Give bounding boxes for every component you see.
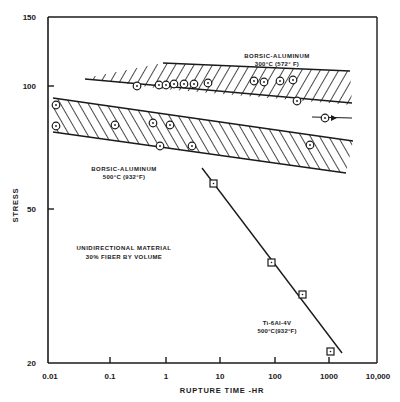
runout-arrow-icon	[331, 115, 337, 121]
annotation-borsic-500c: BORSIC-ALUMINUM 500°C (932°F)	[91, 166, 157, 180]
x-tick-10: 10	[216, 372, 225, 381]
svg-text:Ti-6Al-4V: Ti-6Al-4V	[263, 320, 292, 326]
svg-text:BORSIC-ALUMINUM: BORSIC-ALUMINUM	[244, 53, 310, 59]
svg-text:UNIDIRECTIONAL MATERIAL: UNIDIRECTIONAL MATERIAL	[77, 245, 172, 251]
x-tick-0.1: 0.1	[104, 372, 116, 381]
y-tick-100: 100	[23, 82, 37, 91]
svg-text:BORSIC-ALUMINUM: BORSIC-ALUMINUM	[91, 166, 157, 172]
annotation-ti6al4v: Ti-6Al-4V 500°C(932°F)	[257, 320, 296, 334]
stress-rupture-chart: 150 100 50 20 STRESS 0.01 0.1 1 10 100 1…	[0, 0, 400, 402]
x-tick-0.01: 0.01	[42, 372, 58, 381]
x-tick-10000: 10,000	[366, 372, 391, 381]
y-axis-label: STRESS	[11, 188, 20, 223]
y-tick-20: 20	[27, 359, 36, 368]
svg-text:300°C (572° F): 300°C (572° F)	[255, 61, 299, 67]
x-tick-1000: 1000	[320, 372, 338, 381]
annotation-material-note: UNIDIRECTIONAL MATERIAL 30% FIBER BY VOL…	[77, 245, 172, 260]
svg-text:500°C (932°F): 500°C (932°F)	[103, 174, 145, 180]
y-tick-50: 50	[27, 205, 36, 214]
annotation-borsic-300c: BORSIC-ALUMINUM 300°C (572° F)	[244, 53, 310, 67]
x-tick-100: 100	[268, 372, 282, 381]
series-ti6al4v	[202, 168, 342, 355]
y-tick-150: 150	[23, 13, 37, 22]
band-borsic-500c	[53, 98, 353, 173]
svg-text:30% FIBER BY VOLUME: 30% FIBER BY VOLUME	[86, 254, 163, 260]
x-axis-label: RUPTURE TIME -HR	[180, 386, 264, 395]
x-tick-1: 1	[164, 372, 169, 381]
svg-text:500°C(932°F): 500°C(932°F)	[257, 328, 296, 334]
